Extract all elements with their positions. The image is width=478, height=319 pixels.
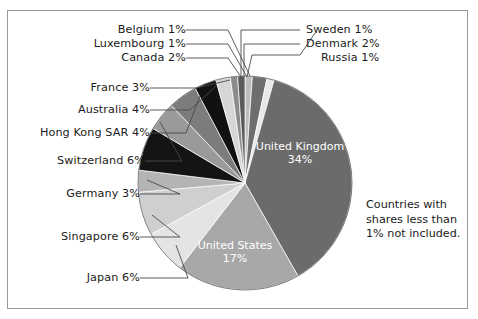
slice-label-united-states-value: 17% <box>180 252 290 265</box>
callout-label-sweden: Sweden 1% <box>306 23 372 36</box>
chart-note-line-2: shares less than <box>366 213 478 228</box>
callout-label-france: France 3% <box>20 81 150 94</box>
chart-note: Countries with shares less than 1% not i… <box>366 198 478 242</box>
leader-line-sweden <box>241 30 300 78</box>
slice-label-united-kingdom-value: 34% <box>245 153 355 166</box>
callout-label-singapore: Singapore 6% <box>10 230 140 243</box>
callout-label-denmark: Denmark 2% <box>306 37 380 50</box>
callout-label-switzerland: Switzerland 6% <box>10 154 145 167</box>
leader-line-denmark <box>244 44 300 77</box>
callout-label-hong-kong-sar: Hong Kong SAR 4% <box>10 126 150 139</box>
callout-label-canada: Canada 2% <box>20 51 186 64</box>
callout-label-russia: Russia 1% <box>321 51 379 64</box>
chart-note-line-3: 1% not included. <box>366 227 478 242</box>
slice-label-united-kingdom-name: United Kingdom <box>245 140 355 153</box>
pie-chart-figure: Belgium 1% Luxembourg 1% Canada 2% Franc… <box>0 0 478 319</box>
chart-note-line-1: Countries with <box>366 198 478 213</box>
callout-label-japan: Japan 6% <box>10 271 140 284</box>
callout-label-luxembourg: Luxembourg 1% <box>20 37 186 50</box>
callout-label-germany: Germany 3% <box>10 187 140 200</box>
callout-label-belgium: Belgium 1% <box>20 23 186 36</box>
leader-line-russia <box>247 33 315 77</box>
callout-label-australia: Australia 4% <box>20 103 150 116</box>
slice-label-united-states-name: United States <box>180 239 290 252</box>
leader-line-canada <box>186 58 241 77</box>
leader-line-belgium <box>186 30 250 76</box>
